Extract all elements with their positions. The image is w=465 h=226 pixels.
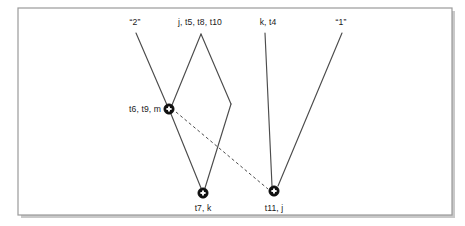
figure-frame bbox=[18, 8, 452, 215]
node-label-t11-j: t11, j bbox=[265, 203, 284, 213]
label-1: “1” bbox=[336, 17, 347, 27]
diagram-canvas: “2” j, t5, t8, t10 k, t4 “1” t6, t9, m t… bbox=[0, 0, 465, 226]
label-k-t4: k, t4 bbox=[260, 17, 277, 27]
label-j-t5-t8-t10: j, t5, t8, t10 bbox=[177, 17, 222, 27]
node-t11-j[interactable] bbox=[269, 186, 279, 196]
node-t7-k[interactable] bbox=[198, 188, 208, 198]
node-label-t6-t9-m: t6, t9, m bbox=[129, 104, 161, 114]
diagram-root: “2” j, t5, t8, t10 k, t4 “1” t6, t9, m t… bbox=[0, 0, 465, 226]
label-2: “2” bbox=[130, 17, 141, 27]
node-t6-t9-m[interactable] bbox=[164, 104, 174, 114]
node-label-t7-k: t7, k bbox=[195, 203, 212, 213]
